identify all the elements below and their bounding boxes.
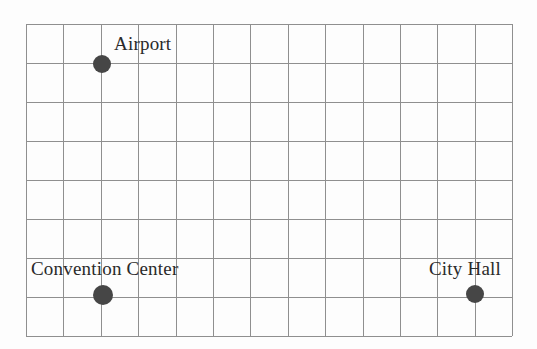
map-diagram: AirportConvention CenterCity Hall: [0, 0, 537, 349]
grid-line-horizontal: [26, 141, 512, 142]
grid-line-horizontal: [26, 219, 512, 220]
grid-line-horizontal: [26, 102, 512, 103]
grid-line-horizontal: [26, 180, 512, 181]
landmark-marker[interactable]: [93, 55, 111, 73]
grid-line-horizontal: [26, 336, 512, 337]
landmark-label: Convention Center: [31, 259, 178, 278]
landmark-marker[interactable]: [466, 285, 484, 303]
landmark-label: Airport: [114, 34, 171, 53]
grid-line-horizontal: [26, 24, 512, 25]
landmark-label: City Hall: [429, 259, 501, 278]
landmark-marker[interactable]: [93, 285, 113, 305]
